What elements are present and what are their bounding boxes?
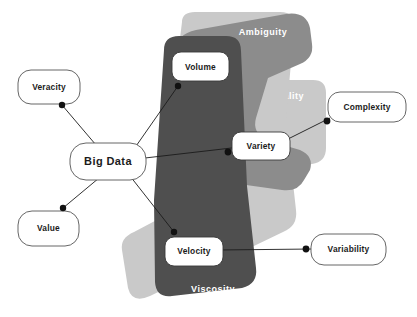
connector-dot-complexity	[324, 118, 331, 125]
node-volume[interactable]: Volume	[172, 52, 229, 81]
node-velocity[interactable]: Velocity	[165, 237, 223, 266]
diagram-canvas: Virality Ambiguity Viscosity	[0, 0, 417, 317]
node-complexity[interactable]: Complexity	[328, 92, 406, 122]
node-velocity-label: Velocity	[177, 246, 210, 256]
node-variety[interactable]: Variety	[232, 132, 290, 160]
node-veracity-label: Veracity	[32, 82, 66, 92]
connector-dot-value	[60, 205, 66, 211]
node-variety-label: Variety	[247, 141, 276, 151]
connector-bigdata-value	[63, 178, 99, 208]
zone-ambiguity-label: Ambiguity	[239, 27, 288, 37]
node-value-label: Value	[37, 223, 60, 233]
connector-dot-volume	[175, 83, 181, 89]
big-data-concept-map: Virality Ambiguity Viscosity	[0, 0, 417, 317]
connector-dot-velocity	[171, 229, 177, 235]
connector-bigdata-veracity	[62, 105, 96, 145]
node-veracity[interactable]: Veracity	[18, 70, 80, 104]
connector-dot-veracity	[59, 102, 65, 108]
connector-dot-variety	[225, 149, 232, 156]
node-value[interactable]: Value	[18, 211, 79, 246]
connector-dot-variability	[303, 246, 310, 253]
node-variability[interactable]: Variability	[311, 234, 386, 265]
node-big-data-label: Big Data	[84, 155, 132, 167]
node-variability-label: Variability	[328, 244, 370, 254]
node-big-data[interactable]: Big Data	[70, 143, 146, 180]
zone-viscosity-label: Viscosity	[191, 284, 235, 294]
node-volume-label: Volume	[185, 62, 216, 72]
node-complexity-label: Complexity	[343, 102, 390, 112]
